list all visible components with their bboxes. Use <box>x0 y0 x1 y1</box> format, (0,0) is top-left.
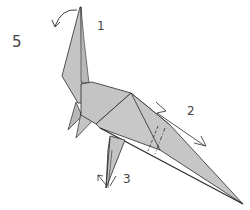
annotation-label-2: 2 <box>187 104 195 118</box>
origami-diagram: 5 1 2 3 <box>0 0 250 210</box>
neck-shape <box>62 7 82 103</box>
annotation-label-3: 3 <box>123 172 131 186</box>
foot-arrow-3-icon <box>98 175 107 186</box>
step-number: 5 <box>12 33 22 51</box>
annotation-label-1: 1 <box>97 19 105 33</box>
neck-right-shape <box>81 7 89 83</box>
